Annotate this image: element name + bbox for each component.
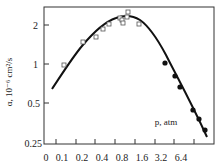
y-tick-label: 0.5 <box>28 98 41 109</box>
x-tick-label: 6.4 <box>175 152 188 163</box>
data-point-circle <box>172 73 177 78</box>
data-point-square <box>126 10 130 14</box>
x-tick-label: 0.8 <box>116 152 129 163</box>
data-point-square <box>125 15 129 19</box>
data-point-square <box>81 40 85 44</box>
data-point-circle <box>202 127 207 132</box>
x-tick-label: 0 <box>44 152 49 163</box>
y-tick-label: 0.25 <box>25 138 43 149</box>
y-axis-label: α, 10⁻⁶ cm²/s <box>4 57 14 106</box>
series-open-squares <box>62 10 141 67</box>
chart: 2 1 0.5 0.25 α, 10⁻⁶ cm²/s 0 0.1 0.2 0.4… <box>0 0 221 167</box>
data-point-circle <box>190 107 195 112</box>
plot-frame <box>44 7 214 144</box>
data-point-circle <box>196 116 201 121</box>
data-point-square <box>137 22 141 26</box>
data-point-square <box>107 22 111 26</box>
y-axis: 2 1 0.5 0.25 <box>25 20 50 149</box>
fit-curve <box>52 16 207 137</box>
y-tick-label: 1 <box>33 59 38 70</box>
x-tick-label: 3.2 <box>155 152 168 163</box>
data-point-circle <box>162 60 167 65</box>
x-tick-label: 0.4 <box>96 152 109 163</box>
x-tick-label: 1.6 <box>136 152 149 163</box>
data-point-square <box>101 27 105 31</box>
data-point-square <box>94 35 98 39</box>
y-tick-label: 2 <box>33 20 38 31</box>
x-axis-label: p, atm <box>155 117 178 127</box>
x-axis: 0 0.1 0.2 0.4 0.8 1.6 3.2 6.4 <box>44 139 195 163</box>
data-point-square <box>62 63 66 67</box>
data-point-circle <box>177 84 182 89</box>
x-tick-label: 0.1 <box>56 152 69 163</box>
data-point-square <box>121 21 125 25</box>
x-tick-label: 0.2 <box>76 152 89 163</box>
